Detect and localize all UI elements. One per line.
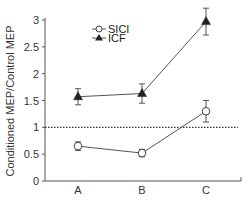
x-tick-label: B [138,184,145,196]
y-tick-label: 3 [33,14,39,26]
y-tick-label: 2 [33,68,39,80]
series-icf [74,8,211,105]
y-tick-label: 0 [33,175,39,187]
legend-item-icf: ICF [92,32,126,44]
series [74,8,211,157]
y-axis-title: Conditioned MEP/Control MEP [4,25,16,176]
open-circle-marker [74,142,82,150]
open-circle-marker [202,107,210,115]
axes: 00.511.522.53ABC [24,14,241,196]
open-circle-marker [138,149,146,157]
filled-triangle-marker [202,17,211,25]
y-tick-label: 0.5 [24,148,39,160]
series-line [78,111,206,153]
y-tick-label: 2.5 [24,41,39,53]
legend-label: ICF [108,32,126,44]
y-tick-label: 1.5 [24,95,39,107]
chart: Conditioned MEP/Control MEP 00.511.522.5… [0,0,249,203]
y-tick-label: 1 [33,121,39,133]
series-sici [74,101,210,157]
legend: SICIICF [92,23,129,44]
svg-text:Conditioned MEP/Control MEP: Conditioned MEP/Control MEP [4,25,16,176]
x-tick-label: C [202,184,210,196]
filled-triangle-marker [74,92,83,100]
open-circle-icon [96,26,102,32]
filled-triangle-icon [95,34,103,41]
x-tick-label: A [74,184,82,196]
